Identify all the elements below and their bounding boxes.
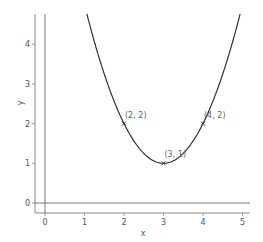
x-tick-label: 0 <box>42 218 47 227</box>
point-label: (4, 2) <box>204 111 226 120</box>
x-axis-label: x <box>141 229 146 238</box>
data-point: (2, 2) <box>122 111 147 126</box>
axis-ticks: 01234501234 <box>25 40 245 227</box>
y-tick-label: 2 <box>25 120 30 129</box>
x-tick-label: 1 <box>82 218 87 227</box>
parabola-curve <box>87 14 240 163</box>
y-axis-label: y <box>16 100 25 105</box>
x-tick-label: 4 <box>200 218 205 227</box>
point-label: (2, 2) <box>125 111 147 120</box>
data-point: (4, 2) <box>201 111 226 126</box>
y-tick-label: 0 <box>25 199 30 208</box>
y-tick-label: 1 <box>25 159 30 168</box>
x-tick-label: 3 <box>161 218 166 227</box>
data-points: (2, 2)(3, 1)(4, 2) <box>122 111 226 166</box>
chart: 01234501234 (2, 2)(3, 1)(4, 2) x y <box>0 0 263 242</box>
y-tick-label: 3 <box>25 80 30 89</box>
point-label: (3, 1) <box>165 150 187 159</box>
y-tick-label: 4 <box>25 40 30 49</box>
curve-path <box>87 14 240 163</box>
x-tick-label: 2 <box>121 218 126 227</box>
x-tick-label: 5 <box>240 218 245 227</box>
